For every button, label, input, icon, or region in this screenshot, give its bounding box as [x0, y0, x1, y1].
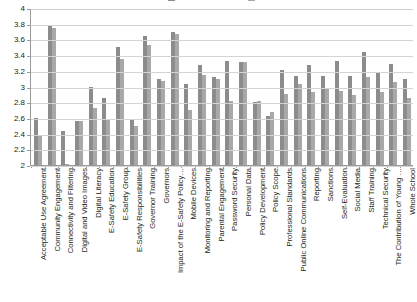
x-axis-category-label: Professional Standards	[286, 168, 294, 247]
x-axis-category-label: Sanctions	[327, 168, 335, 201]
x-axis-category-label: E-Safety Responsibilities	[136, 168, 144, 252]
bar	[325, 88, 329, 165]
bar-chart: Series 1Series 2 43.83.63.43.232.82.62.4…	[0, 0, 417, 302]
bar	[216, 79, 220, 165]
y-axis-tick-label: 2.6	[1, 115, 25, 123]
y-axis-tick-label: 3	[1, 84, 25, 92]
y-axis-tick-label: 2.4	[1, 131, 25, 139]
x-axis-category-label: Community Engagement	[54, 168, 62, 252]
x-axis-category-label: Public Online Communications	[300, 168, 308, 271]
legend-item: Series 1	[168, 0, 204, 1]
x-axis-category-label: Staff Training	[368, 168, 376, 213]
x-axis-category-label: Technical Security	[382, 168, 390, 229]
bar	[161, 81, 165, 165]
x-axis-category-label: E-Safety Education	[108, 168, 116, 233]
legend-label: Series 1	[178, 0, 204, 1]
x-axis-category-label: Monitoring and Reporting	[204, 168, 212, 253]
x-axis-category-label: Digital Literacy	[95, 168, 103, 218]
y-axis-tick-label: 2	[1, 162, 25, 170]
gridline	[31, 40, 413, 41]
bar	[257, 101, 261, 165]
gridline	[31, 119, 413, 120]
x-axis-category-label: The Contribution of Young …	[395, 168, 403, 266]
x-axis-category-label: Password Security	[231, 168, 239, 231]
legend-swatch	[168, 0, 175, 1]
bar	[284, 94, 288, 165]
gridline	[31, 135, 413, 136]
y-axis-tick-mark	[27, 166, 30, 167]
bar	[229, 101, 233, 165]
y-axis-tick-label: 3.2	[1, 68, 25, 76]
y-axis-tick-label: 2.8	[1, 99, 25, 107]
bar	[298, 84, 302, 165]
y-axis-tick-label: 3.6	[1, 36, 25, 44]
bar	[61, 131, 65, 165]
gridline	[31, 72, 413, 73]
gridline	[31, 150, 413, 151]
bar	[120, 59, 124, 165]
x-axis-category-label: Policy Scope	[272, 168, 280, 212]
bar	[352, 95, 356, 165]
x-axis-category-label: Personal Data	[245, 168, 253, 216]
bar	[93, 108, 97, 165]
legend-swatch	[248, 0, 255, 1]
x-axis-category-label: E-Safety Group	[122, 168, 130, 220]
bar	[366, 77, 370, 165]
plot-area	[30, 9, 413, 166]
bar	[106, 119, 110, 165]
x-axis-category-label: Acceptable Use Agreement	[40, 168, 48, 260]
x-axis-category-label: Social Media	[354, 168, 362, 211]
y-axis-tick-label: 3.8	[1, 21, 25, 29]
bar	[79, 121, 83, 165]
x-axis-category-label: Whole School	[409, 168, 417, 215]
gridline	[31, 88, 413, 89]
y-axis-tick-label: 2.2	[1, 146, 25, 154]
bar	[175, 34, 179, 165]
x-axis-category-label: Governor Training	[149, 168, 157, 229]
gridline	[31, 56, 413, 57]
x-axis-category-label: Impact of the E-Safety Policy…	[177, 168, 185, 273]
x-axis-labels: Acceptable Use AgreementCommunity Engage…	[30, 168, 413, 302]
x-axis-category-label: Parental Engagement	[218, 168, 226, 241]
legend-item: Series 2	[248, 0, 284, 1]
x-axis-category-label: Self-Evaluation	[341, 168, 349, 219]
x-axis-category-label: Governors	[163, 168, 171, 203]
y-axis-tick-label: 4	[1, 5, 25, 13]
x-axis-category-label: Policy Development	[259, 168, 267, 235]
gridline	[31, 166, 413, 167]
bar	[134, 126, 138, 165]
gridline	[31, 9, 413, 10]
gridline	[31, 103, 413, 104]
x-axis-category-label: Connectivity and Filtering	[67, 168, 75, 253]
bar	[52, 28, 56, 165]
bar	[393, 82, 397, 165]
bar	[147, 45, 151, 165]
gridline	[31, 25, 413, 26]
x-axis-category-label: Reporting	[313, 168, 321, 201]
chart-legend: Series 1Series 2	[0, 0, 417, 9]
x-axis-category-label: Mobile Devices	[190, 168, 198, 220]
x-axis-category-label: Digital and Video Images	[81, 168, 89, 252]
bar	[407, 98, 411, 165]
y-axis-tick-label: 3.4	[1, 52, 25, 60]
legend-label: Series 2	[258, 0, 284, 1]
y-axis: 43.83.63.43.232.82.62.42.22	[0, 9, 27, 166]
bar	[65, 164, 69, 165]
